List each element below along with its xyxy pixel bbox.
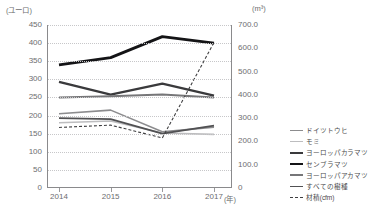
gridline xyxy=(48,43,231,44)
plot-area xyxy=(47,25,232,188)
left-axis-tick-label: 250 xyxy=(2,93,42,101)
legend-item[interactable]: ヨーロッパアカマツ xyxy=(290,170,376,181)
left-axis-tick-label: 400 xyxy=(2,39,42,47)
y-axis-right-line xyxy=(231,25,232,188)
chart-legend: ドイツトウヒモミヨーロッパカラマツセンブラマツヨーロッパアカマツすべての樹種材積… xyxy=(290,125,376,203)
x-axis-line xyxy=(47,187,232,188)
legend-item[interactable]: 材積(cfm) xyxy=(290,192,376,203)
x-axis-unit-label: (年) xyxy=(224,193,236,204)
x-axis-tick xyxy=(111,188,112,192)
legend-label: ヨーロッパカラマツ xyxy=(306,149,368,156)
gridline xyxy=(48,97,231,98)
x-axis-tick xyxy=(59,188,60,192)
legend-item[interactable]: ヨーロッパカラマツ xyxy=(290,147,376,158)
legend-item[interactable]: ドイツトウヒ xyxy=(290,125,376,136)
right-axis-tick-label: 0 xyxy=(238,184,284,192)
right-axis-tick-label: 400.0 xyxy=(238,91,284,99)
left-axis-tick-label: 0 xyxy=(2,184,42,192)
x-axis-tick-label: 2014 xyxy=(36,193,82,201)
right-axis-tick-label: 100.0 xyxy=(238,161,284,169)
legend-swatch-icon xyxy=(290,163,303,165)
x-axis-tick-label: 2015 xyxy=(88,193,134,201)
left-axis-tick-label: 50 xyxy=(2,166,42,174)
series-line xyxy=(59,82,214,96)
legend-label: すべての樹種 xyxy=(306,183,347,190)
right-axis-tick-label: 200.0 xyxy=(238,137,284,145)
right-axis-unit-label: (m³) xyxy=(252,4,266,13)
legend-label: 材積(cfm) xyxy=(306,194,334,201)
legend-label: センブラマツ xyxy=(306,161,347,168)
legend-item[interactable]: すべての樹種 xyxy=(290,181,376,192)
legend-swatch-icon xyxy=(290,186,303,187)
right-axis-tick-label: 700.0 xyxy=(238,21,284,29)
left-axis-tick-label: 300 xyxy=(2,75,42,83)
right-axis-tick-label: 600.0 xyxy=(238,44,284,52)
gridline xyxy=(48,61,231,62)
left-axis-tick-label: 450 xyxy=(2,21,42,29)
legend-swatch-icon xyxy=(290,130,303,131)
right-axis-tick-label: 500.0 xyxy=(238,68,284,76)
legend-item[interactable]: モミ xyxy=(290,136,376,147)
left-axis-tick-label: 350 xyxy=(2,57,42,65)
left-axis-unit-label: (ユーロ) xyxy=(6,4,32,15)
chart-container: (ユーロ) (m³) 450400350300250200150100500 7… xyxy=(0,0,377,213)
legend-swatch-icon xyxy=(290,141,303,142)
left-axis-tick-label: 100 xyxy=(2,148,42,156)
gridline xyxy=(48,79,231,80)
legend-label: モミ xyxy=(306,138,320,145)
right-axis-tick-label: 300.0 xyxy=(238,114,284,122)
x-axis-tick-label: 2016 xyxy=(139,193,185,201)
data-series-lines xyxy=(47,25,232,188)
x-axis-tick xyxy=(162,188,163,192)
legend-label: ヨーロッパアカマツ xyxy=(306,172,368,179)
series-line xyxy=(59,121,214,134)
legend-label: ドイツトウヒ xyxy=(306,127,347,134)
gridline xyxy=(48,134,231,135)
legend-item[interactable]: センブラマツ xyxy=(290,159,376,170)
legend-swatch-icon xyxy=(290,174,303,176)
y-axis-left-line xyxy=(47,25,48,188)
legend-swatch-icon xyxy=(290,197,303,198)
gridline xyxy=(48,152,231,153)
gridline xyxy=(48,170,231,171)
left-axis-tick-label: 200 xyxy=(2,112,42,120)
legend-swatch-icon xyxy=(290,152,303,154)
left-axis-tick-label: 150 xyxy=(2,130,42,138)
gridline xyxy=(48,116,231,117)
x-axis-tick xyxy=(214,188,215,192)
gridline xyxy=(48,25,231,26)
